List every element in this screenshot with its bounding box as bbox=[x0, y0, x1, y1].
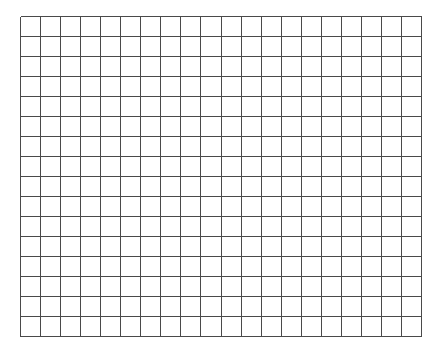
grid-lines bbox=[20, 16, 424, 340]
